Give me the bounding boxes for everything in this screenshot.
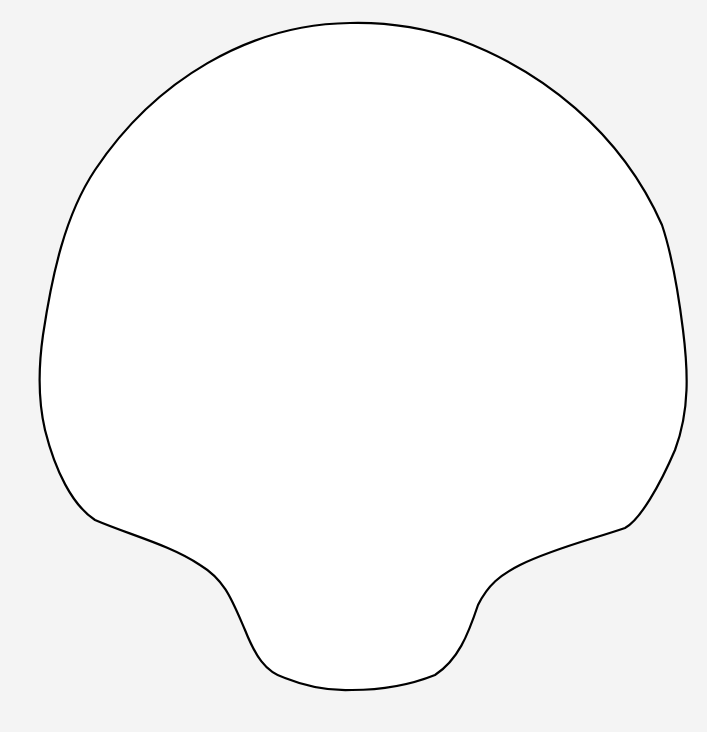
mushroom-outline-shape [39, 23, 686, 690]
outline-shape-canvas [0, 0, 707, 732]
